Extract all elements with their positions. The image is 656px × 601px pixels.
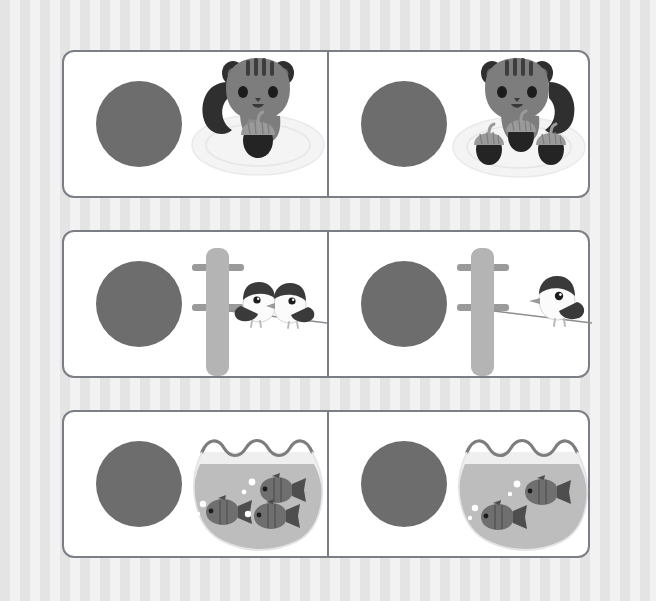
answer-circle[interactable] — [96, 81, 182, 167]
scene-two-fish-bowl — [451, 412, 592, 556]
bird-icon-1 — [529, 276, 584, 326]
worksheet-row-2: 2 — [62, 230, 590, 378]
scene-three-fish-bowl — [186, 412, 327, 556]
panel-row2-right[interactable]: 1 — [329, 232, 592, 376]
worksheet-row-3: 3 — [62, 410, 590, 558]
scene-squirrel-one-acorn — [186, 52, 327, 196]
panel-row3-left[interactable]: 3 — [64, 412, 327, 556]
panel-row2-left[interactable]: 2 — [64, 232, 327, 376]
bird-icon-2 — [266, 283, 314, 328]
scene-one-bird-on-wire — [451, 232, 592, 376]
answer-circle[interactable] — [361, 81, 447, 167]
scene-two-birds-on-wire — [186, 232, 327, 376]
worksheet-board: 1 — [62, 50, 590, 558]
worksheet-row-1: 1 — [62, 50, 590, 198]
fishbowl-icon — [186, 441, 327, 557]
fishbowl-icon — [451, 441, 592, 557]
panel-row1-right[interactable]: 3 — [329, 52, 592, 196]
answer-circle[interactable] — [361, 261, 447, 347]
answer-circle[interactable] — [96, 261, 182, 347]
answer-circle[interactable] — [361, 441, 447, 527]
panel-row3-right[interactable]: 2 — [329, 412, 592, 556]
panel-row1-left[interactable]: 1 — [64, 52, 327, 196]
answer-circle[interactable] — [96, 441, 182, 527]
scene-squirrel-three-acorns — [451, 52, 592, 196]
